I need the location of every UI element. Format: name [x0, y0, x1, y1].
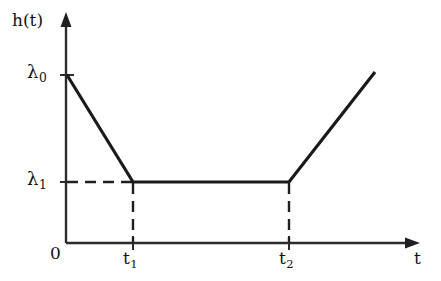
y-axis-label: h(t) [12, 12, 43, 29]
x-tick-label-t2: t2 [279, 250, 294, 270]
y-axis-arrowhead-icon [61, 12, 72, 27]
lambda1-symbol: λ [27, 168, 38, 189]
t2-symbol: t [279, 248, 286, 268]
hazard-curve [67, 72, 375, 182]
lambda0-subscript: 0 [38, 71, 46, 85]
t1-subscript: 1 [130, 257, 138, 271]
x-axis-arrowhead-icon [405, 238, 420, 249]
y-tick-label-lambda1: λ1 [27, 170, 47, 191]
t2-subscript: 2 [286, 257, 294, 271]
plot-canvas [0, 0, 441, 281]
hazard-function-figure: h(t) λ0 λ1 0 t1 t2 t [0, 0, 441, 281]
lambda0-symbol: λ [27, 61, 38, 82]
y-tick-label-lambda0: λ0 [27, 63, 47, 84]
origin-label: 0 [50, 245, 61, 262]
x-tick-label-t1: t1 [123, 250, 138, 270]
t1-symbol: t [123, 248, 130, 268]
x-axis-label: t [414, 250, 421, 267]
lambda1-subscript: 1 [38, 178, 46, 192]
